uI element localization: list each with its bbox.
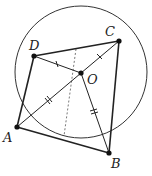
- point-a: [14, 124, 19, 129]
- label-b: B: [110, 156, 121, 171]
- segment-ac: [17, 41, 119, 127]
- label-o: O: [87, 72, 98, 87]
- segment-bc: [109, 41, 119, 153]
- point-c: [116, 38, 121, 43]
- segment-cd: [34, 41, 119, 56]
- segment-ab: [17, 127, 109, 153]
- point-d: [31, 53, 36, 58]
- point-o: [78, 70, 83, 75]
- dashed-line: [64, 49, 76, 136]
- geometry-diagram: A B C D O: [0, 0, 152, 176]
- label-d: D: [28, 38, 40, 53]
- label-a: A: [2, 130, 12, 145]
- point-b: [106, 150, 111, 155]
- label-c: C: [105, 24, 115, 39]
